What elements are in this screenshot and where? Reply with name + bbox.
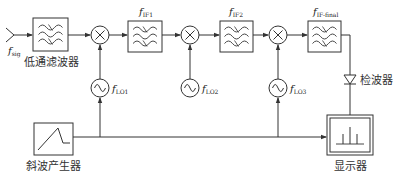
lo1-oscillator-icon (91, 79, 109, 97)
mixer-2-icon (181, 26, 199, 44)
lo1-label: fLO1 (111, 83, 128, 95)
display-block (327, 115, 373, 155)
if1-label: fIF1 (138, 6, 153, 18)
if-final-label: fIF-final (312, 6, 338, 18)
ramp-generator-block (34, 123, 73, 155)
lowpass-filter-block (33, 18, 68, 51)
ramp-generator-label: 斜波产生器 (26, 159, 81, 173)
if-final-filter-block (308, 21, 341, 52)
if2-filter-block (220, 21, 253, 52)
lo3-oscillator-icon (269, 79, 287, 97)
input-signal-label: fsig (7, 45, 21, 58)
lowpass-filter-label: 低通滤波器 (24, 56, 79, 69)
block-diagram: fsig 低通滤波器 fIF1 fIF2 fIF-final (0, 0, 393, 175)
antenna-icon (6, 28, 32, 42)
detector-diode-icon (344, 75, 356, 84)
if2-label: fIF2 (228, 6, 243, 18)
lo2-oscillator-icon (181, 79, 199, 97)
detector-label: 检波器 (360, 73, 393, 87)
mixer-1-icon (91, 26, 109, 44)
display-label: 显示器 (334, 160, 367, 173)
if1-filter-block (128, 21, 162, 52)
lo2-label: fLO2 (201, 83, 219, 95)
mixer-3-icon (269, 26, 287, 44)
lo3-label: fLO3 (289, 83, 307, 95)
